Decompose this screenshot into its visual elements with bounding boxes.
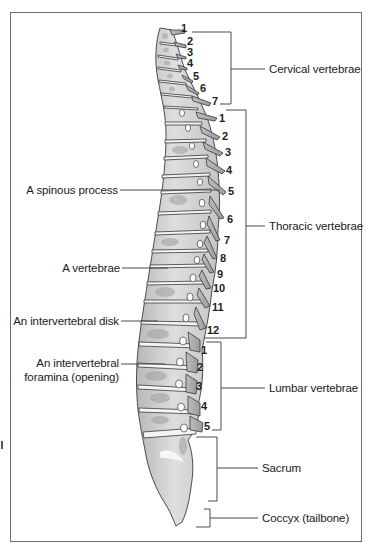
label-intervertebral-foramina-line2: foramina (opening) bbox=[24, 371, 119, 384]
label-cervical-vertebrae: Cervical vertebrae bbox=[269, 63, 361, 76]
label-intervertebral-disk: An intervertebral disk bbox=[13, 315, 119, 328]
thoracic-number-10: 10 bbox=[213, 283, 225, 294]
cervical-number-7: 7 bbox=[212, 96, 218, 107]
lumbar-number-4: 4 bbox=[201, 401, 207, 412]
thoracic-number-9: 9 bbox=[217, 269, 223, 280]
label-spinous-process: A spinous process bbox=[26, 184, 118, 197]
lumbar-number-5: 5 bbox=[204, 421, 210, 432]
thoracic-number-12: 12 bbox=[207, 325, 219, 336]
thoracic-number-8: 8 bbox=[220, 253, 226, 264]
cervical-number-5: 5 bbox=[193, 71, 199, 82]
lumbar-number-3: 3 bbox=[196, 381, 202, 392]
lumbar-number-2: 2 bbox=[197, 362, 203, 373]
bracket-sacrum bbox=[196, 437, 258, 501]
label-vertebrae: A vertebrae bbox=[62, 262, 120, 275]
thoracic-number-7: 7 bbox=[224, 235, 230, 246]
spine-illustration bbox=[0, 0, 372, 548]
label-lumbar-vertebrae: Lumbar vertebrae bbox=[269, 382, 358, 395]
thoracic-number-2: 2 bbox=[222, 131, 228, 142]
thoracic-number-6: 6 bbox=[227, 214, 233, 225]
label-coccyx: Coccyx (tailbone) bbox=[262, 512, 349, 525]
spine-diagram: Cervical vertebrae Thoracic vertebrae Lu… bbox=[0, 0, 372, 548]
cervical-number-1: 1 bbox=[181, 23, 187, 34]
cervical-number-4: 4 bbox=[187, 58, 193, 69]
label-intervertebral-foramina-line1: An intervertebral bbox=[36, 357, 119, 370]
thoracic-number-1: 1 bbox=[219, 113, 225, 124]
thoracic-number-5: 5 bbox=[228, 186, 234, 197]
cervical-number-6: 6 bbox=[200, 83, 206, 94]
bracket-coccyx bbox=[196, 509, 258, 527]
thoracic-number-11: 11 bbox=[212, 302, 224, 313]
label-sacrum: Sacrum bbox=[262, 462, 301, 475]
lumbar-number-1: 1 bbox=[201, 345, 207, 356]
bracket-lumbar bbox=[206, 342, 265, 430]
thoracic-number-3: 3 bbox=[225, 147, 231, 158]
thoracic-number-4: 4 bbox=[226, 165, 232, 176]
label-thoracic-vertebrae: Thoracic vertebrae bbox=[269, 220, 363, 233]
